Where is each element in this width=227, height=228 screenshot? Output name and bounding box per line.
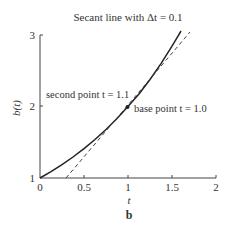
y-ticks: 3 2 1: [30, 29, 44, 184]
y-tick-1: 1: [30, 172, 36, 184]
x-axis-label: t: [127, 194, 131, 206]
base-point-marker: [126, 105, 130, 109]
y-axis-label: b(t): [10, 100, 23, 116]
x-tick-0.5: 0.5: [77, 181, 91, 193]
x-tick-1.5: 1.5: [165, 181, 179, 193]
y-tick-3: 3: [30, 29, 36, 41]
figure-caption: b: [126, 208, 133, 222]
x-tick-2: 2: [213, 181, 219, 193]
y-tick-2: 2: [30, 100, 36, 112]
x-tick-1: 1: [125, 181, 131, 193]
x-tick-0: 0: [37, 181, 43, 193]
second-point-label: second point t = 1.1: [46, 89, 129, 100]
base-point-label: base point t = 1.0: [134, 103, 207, 114]
chart: Secant line with Δt = 0.1 3 2 1 0 0.5 1 …: [0, 0, 227, 228]
chart-title: Secant line with Δt = 0.1: [73, 11, 182, 23]
